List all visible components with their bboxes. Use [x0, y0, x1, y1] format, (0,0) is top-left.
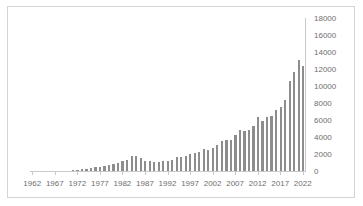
x-axis-tick-mark — [280, 172, 281, 175]
bar — [234, 135, 236, 171]
x-axis-tick-mark — [32, 172, 33, 175]
x-axis-tick-label: 1982 — [114, 179, 132, 189]
bar — [252, 126, 254, 171]
bar — [261, 121, 263, 171]
bar — [225, 140, 227, 171]
bar — [198, 152, 200, 171]
bar-series — [30, 18, 305, 171]
x-axis-tick-mark — [258, 172, 259, 175]
bar — [112, 164, 114, 171]
bar — [162, 161, 164, 171]
chart-border-frame: 0200040006000800010000120001400016000180… — [7, 6, 355, 198]
x-axis-tick-mark — [168, 172, 169, 175]
bar — [221, 141, 223, 171]
x-axis-tick-mark — [145, 172, 146, 175]
bar — [185, 156, 187, 171]
x-axis-tick-label: 1997 — [181, 179, 199, 189]
x-axis-tick-label: 2012 — [249, 179, 267, 189]
bar — [248, 130, 250, 171]
bar — [270, 116, 272, 171]
y-axis-tick-label: 6000 — [314, 116, 332, 125]
bar — [302, 66, 304, 171]
x-axis-tick-label: 1972 — [68, 179, 86, 189]
bar — [144, 161, 146, 171]
x-axis-tick-label: 2017 — [271, 179, 289, 189]
bar — [117, 163, 119, 171]
bar — [207, 150, 209, 171]
x-axis-tick-label: 1977 — [91, 179, 109, 189]
bar — [135, 156, 137, 171]
bar — [289, 81, 291, 171]
bar — [266, 117, 268, 171]
bar — [180, 157, 182, 171]
bar — [140, 158, 142, 171]
x-axis-tick-label: 2022 — [294, 179, 312, 189]
y-axis-tick-label: 16000 — [314, 31, 336, 40]
bar — [149, 161, 151, 171]
x-axis-tick-label: 1962 — [23, 179, 41, 189]
y-axis-tick-label: 18000 — [314, 14, 336, 23]
x-axis-tick-mark — [77, 172, 78, 175]
bar — [284, 100, 286, 171]
bar — [212, 148, 214, 171]
bar — [176, 157, 178, 171]
x-axis-tick-mark — [122, 172, 123, 175]
y-axis-tick-labels: 0200040006000800010000120001400016000180… — [310, 7, 354, 199]
plot-area — [30, 18, 305, 171]
bar — [189, 154, 191, 171]
bar — [298, 60, 300, 171]
y-axis-tick-label: 0 — [314, 167, 318, 176]
bar — [293, 72, 295, 171]
x-axis-tick-mark — [303, 172, 304, 175]
bar — [158, 162, 160, 171]
x-axis-tick-mark — [100, 172, 101, 175]
x-axis-tick-label: 2007 — [226, 179, 244, 189]
y-axis-tick-label: 10000 — [314, 82, 336, 91]
bar — [121, 161, 123, 171]
y-axis-tick-label: 12000 — [314, 65, 336, 74]
x-axis-tick-labels: 1962196719721977198219871992199720022007… — [30, 177, 306, 193]
x-axis-tick-label: 2002 — [204, 179, 222, 189]
bar — [131, 156, 133, 171]
bar — [126, 160, 128, 171]
bar — [280, 107, 282, 171]
y-axis-tick-label: 2000 — [314, 150, 332, 159]
bar — [230, 140, 232, 171]
bar — [257, 117, 259, 171]
bar — [194, 153, 196, 171]
bar — [203, 149, 205, 171]
y-axis-tick-label: 8000 — [314, 99, 332, 108]
x-axis-tick-label: 1967 — [46, 179, 64, 189]
y-axis-tick-label: 4000 — [314, 133, 332, 142]
bar — [171, 160, 173, 171]
x-axis-tick-mark — [190, 172, 191, 175]
x-axis-tick-label: 1987 — [136, 179, 154, 189]
y-axis-tick-label: 14000 — [314, 48, 336, 57]
x-axis-tick-mark — [213, 172, 214, 175]
bar — [153, 162, 155, 171]
x-axis-tick-mark — [55, 172, 56, 175]
x-axis-tick-label: 1992 — [159, 179, 177, 189]
bar — [216, 145, 218, 171]
bar — [243, 131, 245, 171]
bar — [167, 161, 169, 171]
bar — [275, 110, 277, 171]
value-axis-line — [305, 18, 306, 172]
x-axis-tick-mark — [235, 172, 236, 175]
bar — [239, 130, 241, 171]
